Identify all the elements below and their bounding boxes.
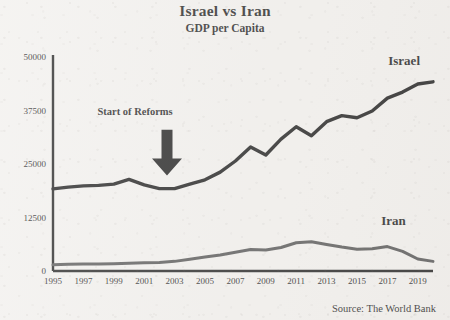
- series-line-iran: [53, 242, 433, 265]
- x-tick-label: 2019: [409, 276, 428, 286]
- annotation-label: Start of Reforms: [97, 106, 172, 117]
- x-tick-label: 1995: [44, 276, 63, 286]
- x-tick-label: 2011: [287, 276, 305, 286]
- x-tick-label: 2017: [378, 276, 397, 286]
- x-tick-label: 2005: [196, 276, 215, 286]
- line-chart-plot: 012500250003750050000 199519971999200120…: [0, 0, 450, 320]
- y-tick-label: 50000: [24, 52, 47, 62]
- annotation-start-of-reforms: Start of Reforms: [97, 106, 182, 176]
- x-tick-label: 1999: [105, 276, 124, 286]
- x-tick-label: 2013: [318, 276, 337, 286]
- x-tick-label: 1997: [74, 276, 93, 286]
- series-line-israel: [53, 82, 433, 189]
- series-label-iran: Iran: [381, 213, 406, 228]
- series-label-group: IsraelIran: [381, 53, 420, 228]
- source-note: Source: The World Bank: [332, 303, 436, 314]
- x-tick-label: 2007: [226, 276, 245, 286]
- x-tick-label: 2003: [166, 276, 185, 286]
- x-tick-label: 2009: [257, 276, 276, 286]
- y-tick-label: 0: [42, 266, 47, 276]
- chart-container: Israel vs Iran GDP per Capita 0125002500…: [0, 0, 450, 320]
- y-tick-label: 25000: [24, 159, 47, 169]
- x-tick-label: 2001: [135, 276, 153, 286]
- y-axis-tick-labels: 012500250003750050000: [24, 52, 47, 276]
- x-tick-label: 2015: [348, 276, 367, 286]
- x-axis-tick-labels: 1995199719992001200320052007200920112013…: [44, 276, 427, 286]
- series-label-israel: Israel: [388, 53, 420, 68]
- y-tick-label: 12500: [24, 213, 47, 223]
- down-arrow-icon: [152, 130, 182, 176]
- y-tick-label: 37500: [24, 106, 47, 116]
